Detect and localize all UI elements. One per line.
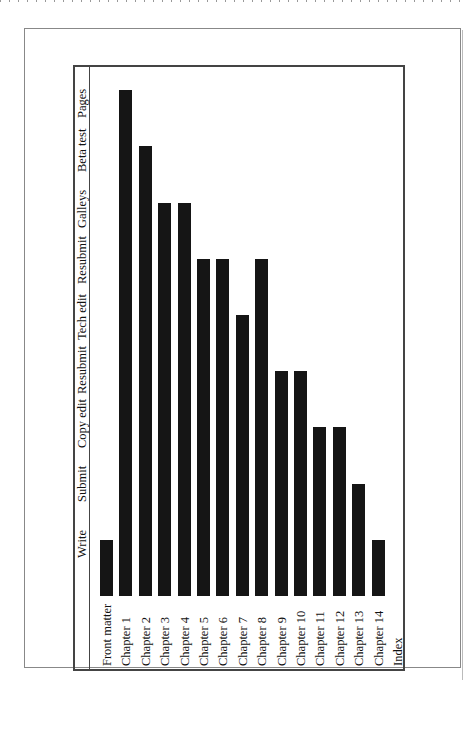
- stage-tick-label: Copy edit: [75, 399, 90, 448]
- bar: [100, 540, 113, 596]
- bar: [255, 259, 268, 596]
- category-label: Chapter 8: [255, 617, 270, 666]
- category-label: Chapter 10: [294, 611, 309, 666]
- bar: [197, 259, 210, 596]
- stage-tick-label: Write: [75, 530, 90, 558]
- dotted-rule: [0, 0, 467, 2]
- stage-tick-label: Resubmit: [75, 346, 90, 394]
- bar: [216, 259, 229, 596]
- stage-tick-label: Beta test: [75, 129, 90, 172]
- bar: [178, 203, 191, 596]
- stage-tick-label: Resubmit: [75, 236, 90, 284]
- category-label: Chapter 7: [236, 617, 251, 666]
- category-label: Chapter 13: [352, 611, 367, 666]
- category-label: Chapter 9: [275, 617, 290, 666]
- category-label: Chapter 4: [178, 617, 193, 666]
- bar: [158, 203, 171, 596]
- stage-tick-label: Pages: [75, 89, 90, 118]
- bar: [119, 90, 132, 596]
- bar: [275, 371, 288, 596]
- bar: [352, 484, 365, 596]
- stage-tick-label: Submit: [75, 466, 90, 502]
- chart-frame: WriteSubmitCopy editResubmitTech editRes…: [73, 65, 405, 671]
- bar: [313, 427, 326, 596]
- category-label: Chapter 6: [216, 617, 231, 666]
- stage-tick-label: Tech edit: [75, 294, 90, 340]
- category-label: Index: [391, 638, 406, 666]
- category-label: Chapter 14: [372, 611, 387, 666]
- category-label: Chapter 12: [333, 611, 348, 666]
- bar: [236, 315, 249, 596]
- category-label: Chapter 2: [139, 617, 154, 666]
- bar: [139, 146, 152, 596]
- stage-tick-label: Galleys: [75, 190, 90, 228]
- category-label: Chapter 5: [197, 617, 212, 666]
- category-label: Chapter 11: [313, 611, 328, 666]
- category-label: Front matter: [100, 604, 115, 666]
- bar: [372, 540, 385, 596]
- category-label: Chapter 1: [119, 617, 134, 666]
- category-label: Chapter 3: [158, 617, 173, 666]
- page-edge: [462, 30, 463, 680]
- bar: [294, 371, 307, 596]
- bar: [333, 427, 346, 596]
